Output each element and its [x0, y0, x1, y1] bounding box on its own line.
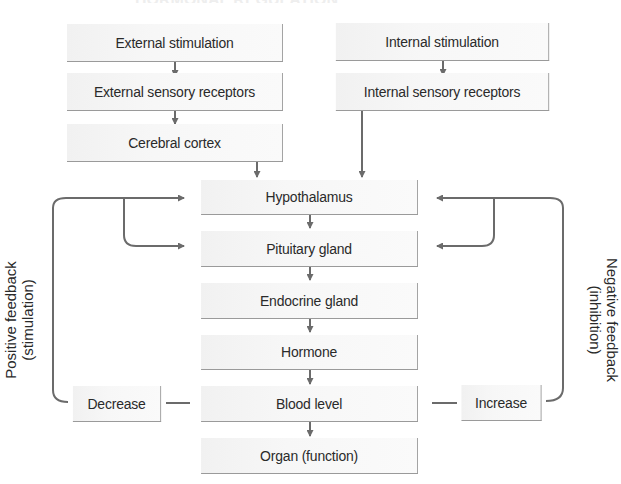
box-label: Internal stimulation [385, 33, 498, 51]
box-organ-function: Organ (function) [201, 438, 418, 474]
box-label: Pituitary gland [266, 240, 352, 258]
box-label: Hypothalamus [266, 188, 353, 206]
box-endocrine-gland: Endocrine gland [201, 283, 418, 319]
box-internal-sensory-receptors: Internal sensory receptors [336, 73, 549, 111]
box-cerebral-cortex: Cerebral cortex [67, 124, 283, 162]
negative-feedback-line1: Negative feedback [604, 245, 621, 395]
box-label: Blood level [276, 395, 342, 413]
box-external-sensory-receptors: External sensory receptors [67, 73, 283, 111]
positive-feedback-label: Positive feedback (stimulation) [2, 245, 36, 395]
box-external-stimulation: External stimulation [67, 24, 283, 62]
box-label: External stimulation [115, 34, 233, 52]
negative-feedback-line2: (inhibition) [587, 245, 604, 395]
box-increase: Increase [461, 385, 541, 421]
box-blood-level: Blood level [201, 386, 418, 422]
box-label: Endocrine gland [260, 292, 358, 310]
box-internal-stimulation: Internal stimulation [336, 23, 549, 61]
box-label: Internal sensory receptors [364, 83, 521, 101]
box-hormone: Hormone [201, 335, 418, 370]
box-label: Decrease [87, 395, 145, 413]
box-pituitary-gland: Pituitary gland [201, 231, 418, 267]
box-decrease: Decrease [73, 386, 161, 422]
positive-feedback-line1: Positive feedback [2, 245, 19, 395]
box-label: Increase [475, 394, 527, 412]
box-label: Cerebral cortex [128, 134, 221, 152]
negative-feedback-label: Negative feedback (inhibition) [587, 245, 621, 395]
positive-feedback-line2: (stimulation) [19, 245, 36, 395]
box-label: Organ (function) [260, 447, 358, 465]
box-label: Hormone [281, 343, 337, 361]
box-label: External sensory receptors [94, 83, 255, 101]
box-hypothalamus: Hypothalamus [201, 180, 418, 215]
